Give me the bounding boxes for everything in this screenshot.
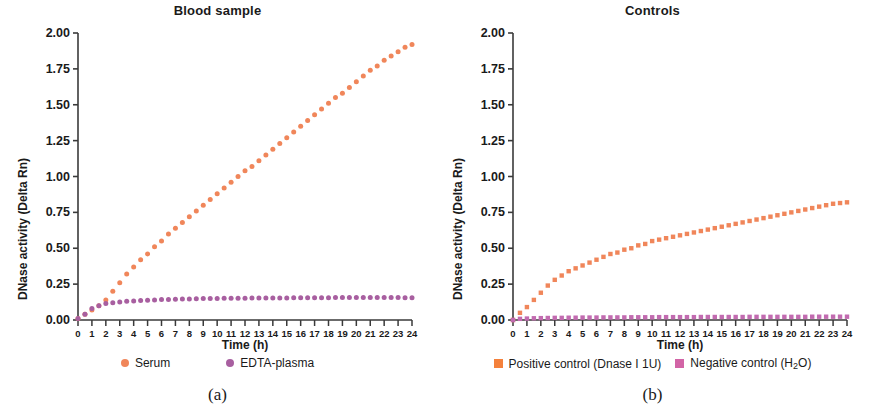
data-point — [76, 316, 81, 321]
data-point — [173, 226, 178, 231]
data-point — [629, 246, 633, 250]
data-point — [838, 201, 842, 205]
x-axis-label-blood-sample: Time (h) — [78, 338, 412, 352]
data-point — [340, 91, 345, 96]
data-point — [326, 295, 331, 300]
data-point — [326, 101, 331, 106]
data-point — [361, 295, 366, 300]
data-point — [720, 225, 724, 229]
data-point — [347, 85, 352, 90]
data-point — [831, 202, 835, 206]
data-point — [270, 295, 275, 300]
data-point — [692, 315, 696, 319]
data-point — [159, 239, 164, 244]
data-point — [152, 297, 157, 302]
data-point — [713, 315, 717, 319]
data-point — [692, 230, 696, 234]
x-axis-label-controls: Time (h) — [513, 338, 847, 352]
data-point — [312, 112, 317, 117]
data-point — [82, 312, 87, 317]
legend-swatch-square-icon — [675, 359, 684, 368]
data-point — [368, 68, 373, 73]
data-point — [608, 315, 612, 319]
data-point — [706, 227, 710, 231]
data-point — [263, 152, 268, 157]
legend-item[interactable]: EDTA-plasma — [226, 356, 314, 370]
chart-svg: 0.000.250.500.751.001.251.501.752.000123… — [0, 0, 435, 340]
data-point — [96, 303, 101, 308]
data-point — [256, 158, 261, 163]
data-point — [796, 209, 800, 213]
data-point — [208, 296, 213, 301]
data-point — [699, 229, 703, 233]
data-series — [76, 295, 415, 321]
legend-item[interactable]: Negative control (H2O) — [675, 356, 811, 371]
data-point — [403, 295, 408, 300]
legend-label: Positive control (Dnase I 1U) — [509, 357, 662, 371]
plot-area-blood-sample: 0.000.250.500.751.001.251.501.752.000123… — [0, 0, 435, 340]
data-point — [747, 315, 751, 319]
data-point — [720, 315, 724, 319]
legend-item[interactable]: Serum — [121, 356, 170, 370]
y-tick-label: 2.00 — [481, 26, 505, 40]
data-point — [803, 207, 807, 211]
data-point — [389, 53, 394, 58]
data-series — [511, 200, 849, 322]
data-point — [796, 315, 800, 319]
data-point — [236, 174, 241, 179]
data-point — [657, 315, 661, 319]
data-point — [636, 243, 640, 247]
data-point — [845, 200, 849, 204]
data-point — [643, 315, 647, 319]
data-point — [305, 295, 310, 300]
data-point — [775, 315, 779, 319]
data-point — [824, 203, 828, 207]
data-point — [410, 42, 415, 47]
data-point — [518, 311, 522, 315]
data-point — [754, 315, 758, 319]
data-point — [222, 296, 227, 301]
panel-controls: Controls DNase activity (Delta Rn) 0.000… — [435, 0, 870, 407]
data-point — [312, 295, 317, 300]
data-point — [194, 296, 199, 301]
data-point — [810, 314, 814, 318]
legend-blood-sample: SerumEDTA-plasma — [0, 356, 435, 370]
data-point — [532, 316, 536, 320]
data-point — [159, 297, 164, 302]
data-point — [110, 289, 115, 294]
data-point — [333, 95, 338, 100]
y-tick-label: 2.00 — [46, 26, 70, 40]
data-point — [643, 242, 647, 246]
data-point — [768, 214, 772, 218]
data-point — [333, 295, 338, 300]
figure-two-panel-dnase-activity: Blood sample DNase activity (Delta Rn) 0… — [0, 0, 870, 407]
y-tick-label: 0.75 — [481, 205, 505, 219]
data-point — [727, 223, 731, 227]
data-point — [117, 300, 122, 305]
data-point — [636, 315, 640, 319]
data-point — [817, 314, 821, 318]
data-point — [761, 216, 765, 220]
data-point — [838, 314, 842, 318]
data-point — [145, 251, 150, 256]
data-point — [671, 235, 675, 239]
legend-item[interactable]: Positive control (Dnase I 1U) — [494, 357, 662, 371]
data-point — [733, 222, 737, 226]
y-tick-label: 0.75 — [46, 205, 70, 219]
data-point — [229, 180, 234, 185]
data-point — [382, 295, 387, 300]
data-point — [546, 316, 550, 320]
chart-svg: 0.000.250.500.751.001.251.501.752.000123… — [435, 0, 870, 340]
data-point — [194, 208, 199, 213]
data-point — [560, 273, 564, 277]
data-point — [396, 49, 401, 54]
legend-swatch-circle-icon — [226, 359, 234, 367]
data-point — [103, 301, 108, 306]
data-point — [138, 257, 143, 262]
legend-label: EDTA-plasma — [240, 356, 314, 370]
data-point — [396, 295, 401, 300]
data-point — [525, 305, 529, 309]
data-point — [215, 191, 220, 196]
y-tick-label: 0.50 — [481, 241, 505, 255]
data-point — [553, 278, 557, 282]
